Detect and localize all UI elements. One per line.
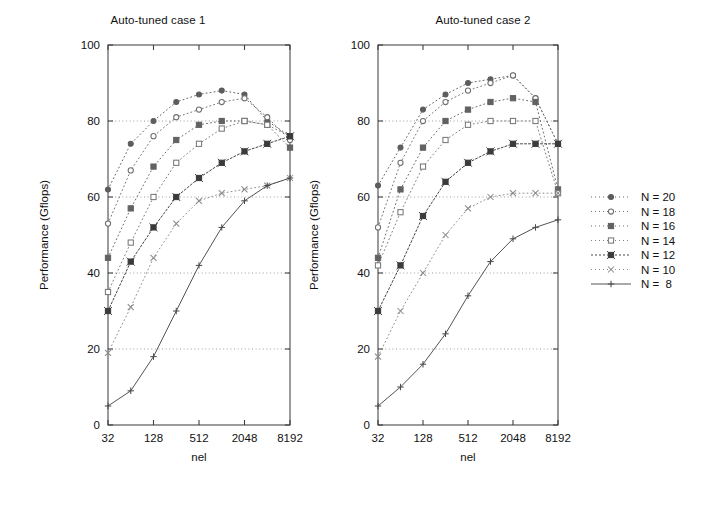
data-point — [375, 255, 380, 260]
data-point — [173, 308, 179, 314]
y-tick-label: 80 — [87, 115, 100, 127]
data-point — [263, 140, 271, 148]
data-point — [127, 258, 135, 266]
data-point — [488, 80, 493, 85]
data-point — [510, 73, 515, 78]
y-tick-label: 100 — [351, 39, 370, 51]
data-point — [174, 137, 179, 142]
data-point — [128, 240, 133, 245]
data-point — [421, 107, 426, 112]
y-tick-label: 20 — [87, 343, 100, 355]
legend-marker — [609, 195, 614, 200]
chart-panel-case-2: Auto-tuned case 2 0204060801003212851220… — [330, 0, 590, 512]
data-point — [533, 118, 538, 123]
data-point — [104, 307, 112, 315]
legend-entry[interactable]: N = 14 — [591, 235, 676, 247]
data-point — [219, 118, 224, 123]
data-point — [105, 403, 111, 409]
data-point — [151, 194, 156, 199]
data-point — [375, 263, 380, 268]
legend-label: N = 14 — [641, 235, 676, 247]
legend-marker — [608, 238, 613, 243]
data-point — [374, 307, 382, 315]
x-axis-title: nel — [191, 451, 206, 463]
data-point — [151, 119, 156, 124]
data-point — [105, 289, 110, 294]
data-point — [219, 99, 224, 104]
data-point — [219, 126, 224, 131]
x-tick-label: 128 — [413, 432, 432, 444]
plot-area-case-2: 0204060801003212851220488192nelPerforman… — [330, 0, 590, 512]
data-point — [106, 187, 111, 192]
y-tick-label: 60 — [87, 191, 100, 203]
data-point — [128, 168, 133, 173]
data-point — [465, 293, 471, 299]
data-point — [241, 147, 249, 155]
data-point — [265, 122, 270, 127]
data-point — [443, 232, 449, 238]
y-tick-label: 0 — [364, 419, 370, 431]
data-point — [533, 190, 539, 196]
data-point — [172, 193, 180, 201]
data-point — [420, 164, 425, 169]
legend-label: N = 8 — [641, 278, 672, 290]
figure-canvas: Auto-tuned case 1 0204060801003212851220… — [0, 0, 720, 512]
y-axis: 020406080100 — [351, 39, 558, 431]
legend-label: N = 12 — [641, 249, 675, 261]
legend-entry[interactable]: N = 10 — [591, 264, 675, 276]
data-point — [196, 122, 201, 127]
data-point — [532, 140, 540, 148]
x-tick-label: 2048 — [500, 432, 526, 444]
data-point — [173, 221, 179, 227]
y-tick-label: 60 — [357, 191, 370, 203]
legend-entry[interactable]: N = 12 — [591, 249, 675, 261]
data-point — [150, 223, 158, 231]
data-point — [151, 255, 157, 261]
data-point — [419, 212, 427, 220]
data-point — [398, 187, 403, 192]
legend-marker — [607, 251, 615, 259]
legend-label: N = 10 — [641, 264, 675, 276]
data-point — [105, 221, 110, 226]
data-point — [554, 140, 562, 148]
data-point — [196, 107, 201, 112]
data-point — [218, 159, 226, 167]
y-tick-label: 80 — [357, 115, 370, 127]
data-point — [443, 118, 448, 123]
x-tick-label: 128 — [144, 432, 163, 444]
data-point — [398, 308, 404, 314]
data-point — [105, 255, 110, 260]
data-point — [487, 147, 495, 155]
data-point — [488, 99, 493, 104]
legend-marker — [608, 223, 613, 228]
legend-entry[interactable]: N = 16 — [591, 220, 675, 232]
legend-entry[interactable]: N = 8 — [591, 278, 672, 290]
data-point — [465, 122, 470, 127]
legend-entry[interactable]: N = 18 — [591, 206, 675, 218]
data-point — [510, 96, 515, 101]
y-axis-title: Performance (Gflops) — [308, 180, 320, 290]
data-point — [398, 160, 403, 165]
legend-marker — [608, 281, 614, 287]
data-point — [488, 118, 493, 123]
data-point — [509, 140, 517, 148]
plot-frame — [378, 45, 558, 425]
data-point — [128, 141, 133, 146]
data-point — [197, 92, 202, 97]
series-N=16 — [105, 118, 292, 260]
legend-entry[interactable]: N = 20 — [591, 191, 675, 203]
data-point — [287, 145, 292, 150]
data-point — [465, 205, 471, 211]
data-point — [196, 198, 202, 204]
data-point — [397, 261, 405, 269]
legend-label: N = 20 — [641, 191, 675, 203]
y-tick-label: 40 — [357, 267, 370, 279]
x-tick-label: 2048 — [232, 432, 258, 444]
data-point — [442, 178, 450, 186]
x-tick-label: 32 — [372, 432, 385, 444]
data-point — [242, 96, 247, 101]
y-tick-label: 20 — [357, 343, 370, 355]
x-tick-label: 8192 — [545, 432, 571, 444]
data-point — [151, 134, 156, 139]
legend-label: N = 16 — [641, 220, 675, 232]
